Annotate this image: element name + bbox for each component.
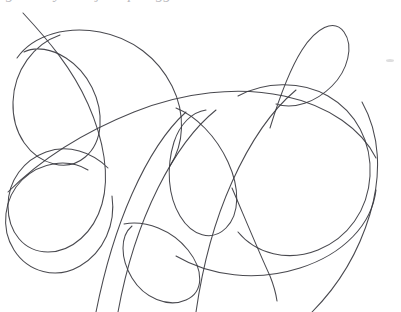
top-right-teardrop-path xyxy=(270,26,349,128)
scribble-drawing xyxy=(0,0,401,312)
lower-right-sweep-path xyxy=(176,190,376,276)
upper-arch-path xyxy=(17,30,182,166)
scribble-canvas: gyjpgg xyxy=(0,0,401,312)
stroke-group xyxy=(6,13,378,312)
right-outer-arc xyxy=(312,102,378,312)
long-diagonal-sweep xyxy=(8,91,376,192)
right-big-loop-path xyxy=(238,85,370,256)
center-vertical-loop-path xyxy=(169,108,237,236)
upper-right-riser xyxy=(196,90,296,312)
left-descender xyxy=(96,112,186,312)
left-tall-loop-path xyxy=(13,35,100,165)
main-continuous-scribble xyxy=(8,13,108,252)
tail-path xyxy=(232,188,277,301)
